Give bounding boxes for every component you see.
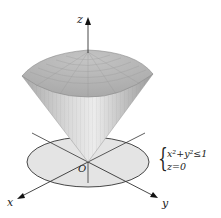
- z-arrow: [85, 17, 91, 25]
- condition-line-2: z=0: [167, 161, 186, 172]
- x-axis-label: x: [7, 197, 13, 208]
- x-arrow: [17, 193, 25, 199]
- origin-label: O: [78, 164, 86, 174]
- z-axis-label: z: [77, 14, 83, 25]
- y-axis-label: y: [162, 198, 168, 209]
- cone-figure: [0, 0, 221, 218]
- cone-diagram: z O x y { x²+y²≤1 z=0: [0, 0, 221, 218]
- condition-line-1: x²+y²≤1: [167, 148, 207, 159]
